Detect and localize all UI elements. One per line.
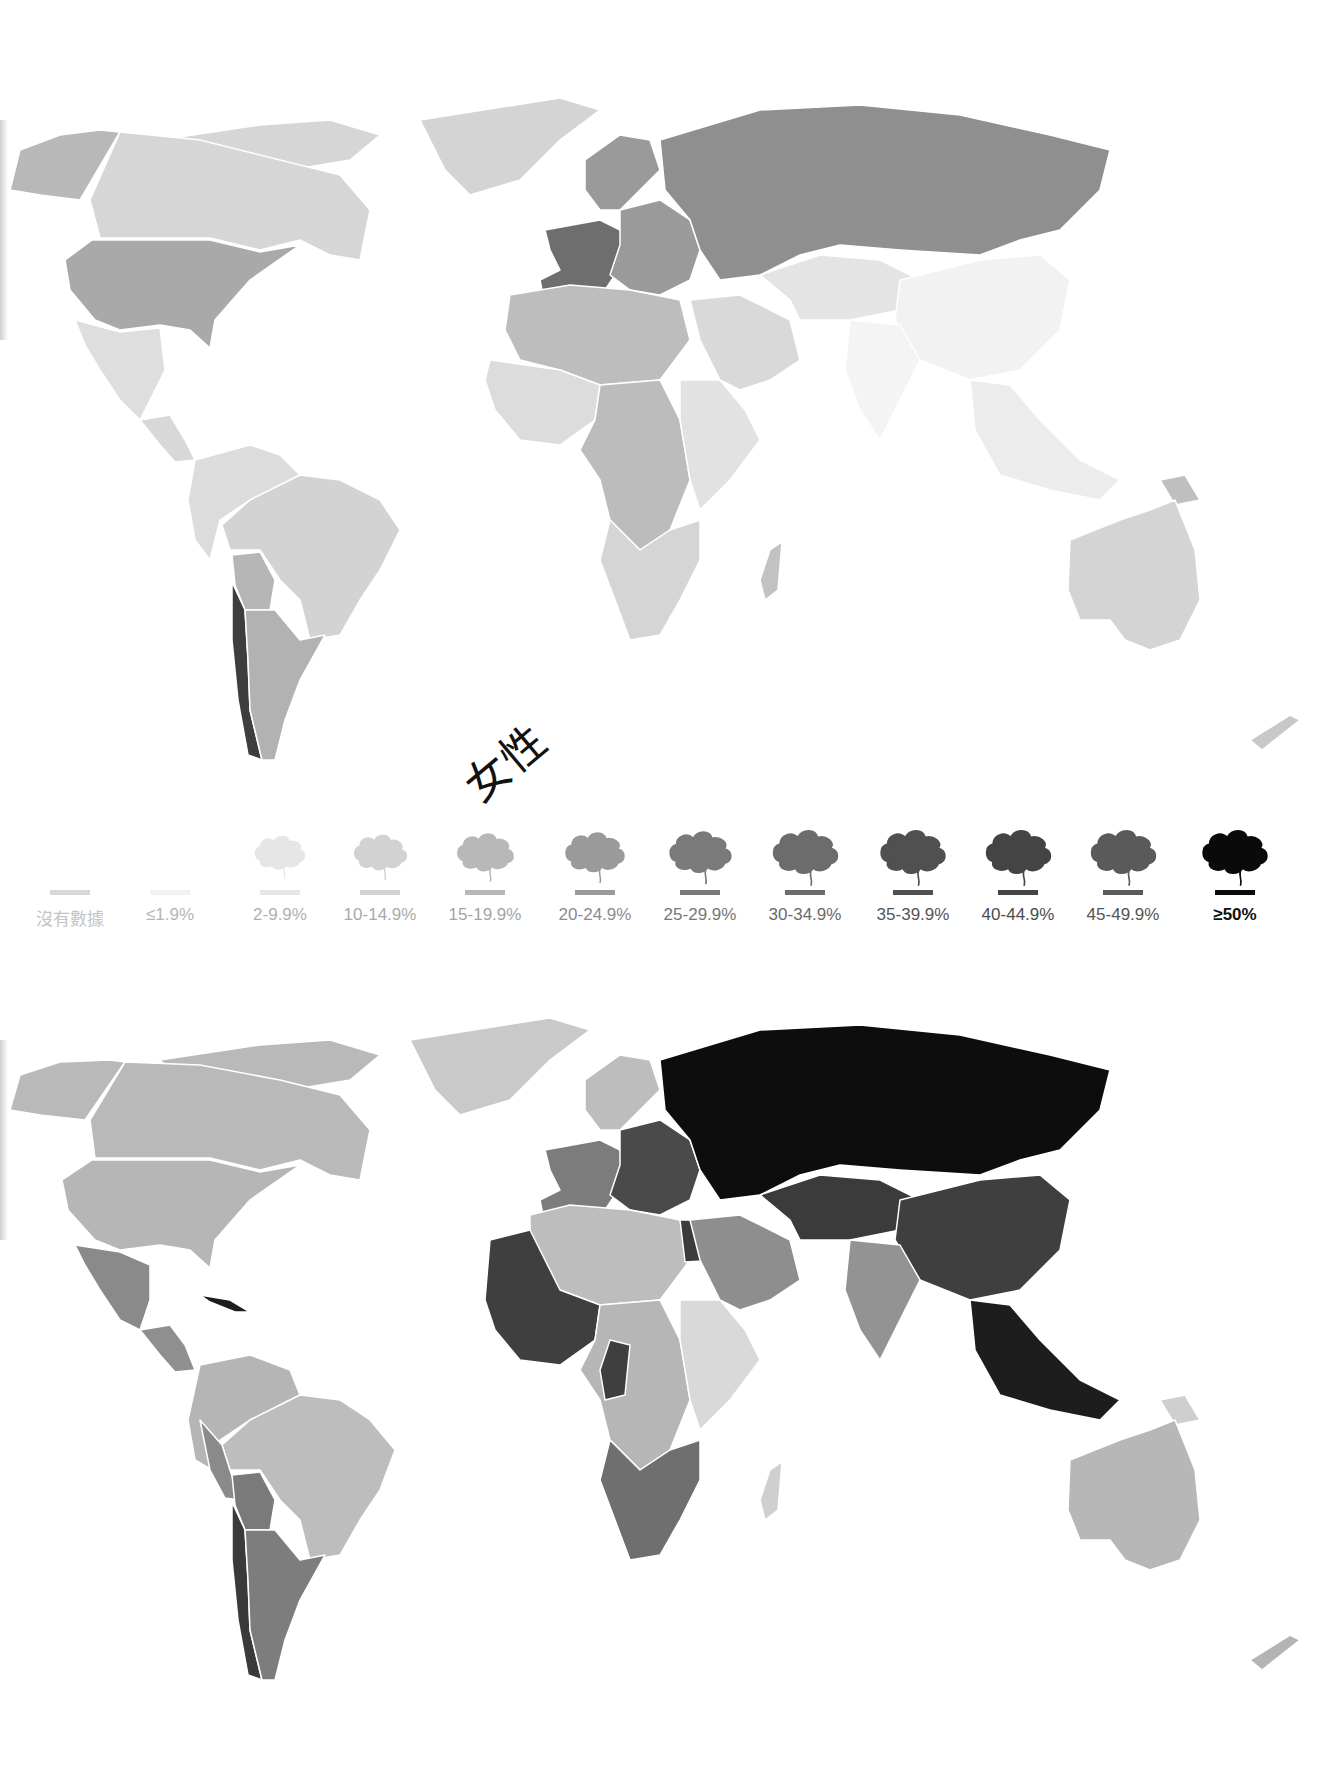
legend-label: 15-19.9% [430, 905, 540, 925]
world-map-female [0, 80, 1330, 800]
cigarette-icon [465, 890, 505, 895]
region-china [895, 255, 1070, 380]
legend-item: 沒有數據 [15, 822, 125, 930]
region-central-america [140, 415, 195, 462]
region-madagascar [760, 542, 782, 600]
legend-label: 沒有數據 [15, 905, 125, 930]
cigarette-icon [998, 890, 1038, 895]
region-southeast-asia [970, 380, 1120, 500]
cigarette-icon [785, 890, 825, 895]
region-russia [660, 105, 1110, 280]
cigarette-icon [1103, 890, 1143, 895]
region-middle-east [690, 295, 800, 390]
region-new-zealand [1250, 1635, 1300, 1670]
legend-item: 15-19.9% [430, 822, 540, 925]
legend-item: 45-49.9% [1068, 822, 1178, 925]
region-central-africa [580, 1300, 690, 1470]
female-smoking-map: 女性 [0, 80, 1330, 800]
legend-label: 45-49.9% [1068, 905, 1178, 925]
region-greenland [410, 1018, 590, 1115]
smoke-cloud-icon [252, 822, 308, 888]
cigarette-icon [150, 890, 190, 895]
legend-item: 2-9.9% [225, 822, 335, 925]
smoke-cloud-icon [1192, 822, 1278, 888]
cigarette-icon [360, 890, 400, 895]
region-china [895, 1175, 1070, 1300]
legend-label: ≤1.9% [115, 905, 225, 925]
region-mexico [75, 1245, 150, 1330]
smoke-cloud-icon [144, 822, 197, 888]
smoke-cloud-icon [351, 822, 410, 888]
region-australia [1068, 1420, 1200, 1570]
cigarette-icon [893, 890, 933, 895]
cigarette-icon [1215, 890, 1255, 895]
legend-label: 35-39.9% [858, 905, 968, 925]
legend-item: 30-34.9% [750, 822, 860, 925]
legend-label: 25-29.9% [645, 905, 755, 925]
region-east-africa [680, 1300, 760, 1430]
region-scandinavia [585, 1055, 660, 1130]
smoke-cloud-icon [1082, 822, 1165, 888]
cigarette-icon [260, 890, 300, 895]
region-scandinavia [585, 135, 660, 210]
region-new-zealand [1250, 715, 1300, 750]
male-smoking-map: 男性 [0, 1000, 1330, 1720]
region-australia [1068, 500, 1200, 650]
legend-item: 20-24.9% [540, 822, 650, 925]
region-russia [660, 1025, 1110, 1200]
legend-label: 10-14.9% [325, 905, 435, 925]
region-middle-east [690, 1215, 800, 1310]
region-southeast-asia [970, 1300, 1120, 1420]
region-greenland [420, 98, 600, 195]
legend-label: 20-24.9% [540, 905, 650, 925]
smoke-cloud-icon [45, 822, 95, 888]
legend-label: 2-9.9% [225, 905, 335, 925]
region-mexico [75, 320, 165, 420]
cigarette-icon [575, 890, 615, 895]
legend-item: 25-29.9% [645, 822, 755, 925]
legend-item: 10-14.9% [325, 822, 435, 925]
legend-label: 30-34.9% [750, 905, 860, 925]
smoke-cloud-icon [769, 822, 842, 888]
smoke-cloud-icon [875, 822, 951, 888]
smoke-cloud-icon [666, 822, 735, 888]
world-map-male [0, 1000, 1330, 1720]
smoking-rate-legend: 沒有數據≤1.9%2-9.9%10-14.9%15-19.9%20-24.9%2… [0, 822, 1330, 947]
region-central-america [140, 1325, 195, 1372]
cigarette-icon [50, 890, 90, 895]
legend-label: ≥50% [1180, 905, 1290, 925]
smoke-cloud-icon [454, 822, 517, 888]
cigarette-icon [680, 890, 720, 895]
legend-label: 40-44.9% [963, 905, 1073, 925]
region-central-africa [580, 380, 690, 550]
smoke-cloud-icon [562, 822, 628, 888]
smoke-cloud-icon [979, 822, 1058, 888]
legend-item: 35-39.9% [858, 822, 968, 925]
region-png [1160, 475, 1200, 505]
legend-item: ≥50% [1180, 822, 1290, 925]
legend-item: ≤1.9% [115, 822, 225, 925]
region-madagascar [760, 1462, 782, 1520]
region-png [1160, 1395, 1200, 1425]
legend-item: 40-44.9% [963, 822, 1073, 925]
region-east-africa [680, 380, 760, 510]
region-cuba [200, 1295, 250, 1312]
